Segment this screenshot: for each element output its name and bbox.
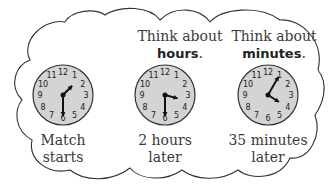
- clock-number: 6: [265, 114, 270, 123]
- clock-number: 7: [49, 111, 54, 120]
- period: .: [301, 45, 305, 61]
- clock-number: 11: [251, 71, 261, 80]
- clock-number: 4: [80, 103, 85, 112]
- clock-number: 5: [174, 111, 179, 120]
- label-line: 2 hours: [125, 132, 205, 149]
- clock-number: 10: [38, 80, 48, 89]
- label-line: starts: [23, 149, 103, 166]
- clock-match-starts: 121234567891011: [31, 63, 95, 127]
- bold-word: minutes: [242, 46, 301, 61]
- clock-number: 8: [143, 103, 148, 112]
- header-emphasis: minutes.: [228, 45, 320, 62]
- clock-number: 4: [182, 103, 187, 112]
- clock-number: 9: [242, 91, 247, 100]
- clock-number: 9: [139, 91, 144, 100]
- clock-number: 7: [254, 111, 259, 120]
- clock-number: 1: [72, 71, 77, 80]
- clock-number: 1: [174, 71, 179, 80]
- clock-number: 8: [41, 103, 46, 112]
- clock-center: [61, 93, 66, 98]
- clock-two-hours-later: 121234567891011: [133, 63, 197, 127]
- header-emphasis: hours.: [135, 45, 225, 62]
- clock-number: 9: [37, 91, 42, 100]
- label-line: Match: [23, 132, 103, 149]
- panel-2-header: Think about hours.: [135, 28, 225, 62]
- clock-number: 2: [285, 80, 290, 89]
- clock-number: 11: [148, 71, 158, 80]
- clock-number: 3: [288, 91, 293, 100]
- clock-number: 11: [46, 71, 56, 80]
- clock-center: [266, 93, 271, 98]
- header-text: Think about: [135, 28, 225, 45]
- clock-number: 12: [58, 68, 68, 77]
- clock-number: 4: [285, 103, 290, 112]
- clock-number: 5: [72, 111, 77, 120]
- header-text: Think about: [228, 28, 320, 45]
- clock-number: 5: [277, 111, 282, 120]
- label-line: later: [125, 149, 205, 166]
- clock-number: 12: [160, 68, 170, 77]
- clock-35-minutes-later: 121234567891011: [236, 63, 300, 127]
- bold-word: hours: [157, 46, 199, 61]
- clock-number: 2: [182, 80, 187, 89]
- clock-number: 3: [185, 91, 190, 100]
- clock-number: 8: [246, 103, 251, 112]
- label-line: 35 minutes: [223, 132, 313, 149]
- clock-number: 10: [140, 80, 150, 89]
- clock-center: [163, 93, 168, 98]
- label-line: later: [223, 149, 313, 166]
- clock-number: 12: [263, 68, 273, 77]
- clock-number: 2: [80, 80, 85, 89]
- panel-3-label: 35 minutes later: [223, 132, 313, 166]
- panel-3-header: Think about minutes.: [228, 28, 320, 62]
- panel-2-label: 2 hours later: [125, 132, 205, 166]
- clock-number: 7: [151, 111, 156, 120]
- clock-number: 10: [243, 80, 253, 89]
- panel-1-label: Match starts: [23, 132, 103, 166]
- period: .: [199, 45, 203, 61]
- clock-number: 3: [83, 91, 88, 100]
